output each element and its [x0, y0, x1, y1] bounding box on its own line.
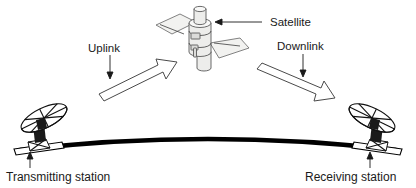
uplink-label: Uplink [88, 42, 120, 54]
transmitting-station-label: Transmitting station [6, 170, 110, 184]
downlink-pointer-arrow-icon [300, 54, 306, 77]
satellite-pointer-arrow-icon [215, 19, 262, 25]
receiving-pointer-arrow-icon [367, 152, 373, 168]
uplink-arrow-icon [99, 59, 177, 101]
transmitting-pointer-arrow-icon [27, 152, 33, 168]
satellite-label: Satellite [270, 16, 311, 28]
uplink-pointer-arrow-icon [107, 55, 113, 79]
earth-curvature-arc [20, 139, 396, 150]
receiving-station-antenna-icon [345, 98, 402, 155]
downlink-label: Downlink [277, 40, 324, 52]
satellite-top-antenna [194, 6, 206, 24]
diagram-canvas: Satellite Uplink Downlink Transmitting s… [0, 0, 416, 188]
downlink-arrow-icon [257, 63, 335, 101]
receiving-station-label: Receiving station [305, 170, 396, 184]
solar-panel-right [210, 38, 249, 58]
transmitting-station-antenna-icon [14, 98, 71, 155]
satellite-link-diagram: Satellite Uplink Downlink Transmitting s… [0, 0, 416, 188]
